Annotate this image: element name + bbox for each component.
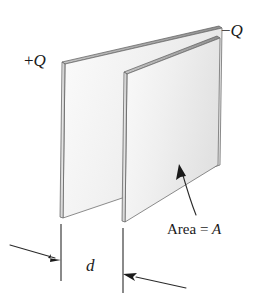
left-dimension-arrow-shaft — [10, 245, 55, 258]
negative-charge-symbol: Q — [231, 21, 243, 40]
positive-charge-symbol: Q — [34, 51, 46, 70]
negative-charge-label: −Q — [221, 22, 243, 39]
negative-charge-sign: − — [221, 21, 231, 40]
capacitor-figure: +Q −Q Area = A d — [0, 0, 275, 296]
right-dimension-arrow-shaft — [136, 277, 186, 288]
capacitor-diagram-svg — [0, 0, 275, 296]
separation-dimension — [10, 224, 186, 293]
separation-label: d — [86, 257, 95, 274]
area-label-symbol: A — [212, 221, 221, 237]
right-dimension-arrowhead — [123, 273, 137, 281]
positive-charge-label: +Q — [24, 52, 46, 69]
area-label-text: Area = — [167, 221, 212, 237]
area-label: Area = A — [167, 222, 221, 237]
positive-charge-sign: + — [24, 51, 34, 70]
